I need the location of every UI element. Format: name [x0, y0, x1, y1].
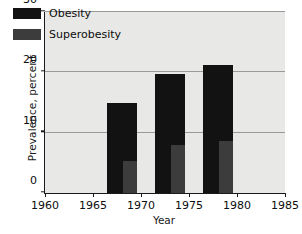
x-tick-label: 1965	[71, 199, 115, 212]
x-tick-mark	[189, 193, 190, 197]
x-tick-mark	[285, 193, 286, 197]
y-tick-label: 10	[0, 113, 37, 126]
bar-superobesity	[123, 161, 137, 193]
legend-item: Obesity	[13, 5, 121, 22]
legend-label: Superobesity	[49, 28, 121, 41]
chart-figure: Prevalence, percent Year 0102030 1960196…	[0, 0, 302, 234]
legend-label: Obesity	[49, 7, 91, 20]
bar-superobesity	[219, 141, 233, 193]
y-tick-mark	[41, 70, 45, 71]
x-tick-mark	[45, 193, 46, 197]
x-tick-mark	[237, 193, 238, 197]
legend-swatch	[13, 29, 41, 40]
bar-superobesity	[171, 145, 185, 193]
x-tick-label: 1970	[119, 199, 163, 212]
x-tick-mark	[141, 193, 142, 197]
y-tick-label: 0	[0, 174, 37, 187]
y-tick-mark	[41, 131, 45, 132]
legend-item: Superobesity	[13, 26, 121, 43]
y-tick-label: 20	[0, 53, 37, 66]
x-tick-label: 1975	[167, 199, 211, 212]
x-tick-label: 1960	[23, 199, 67, 212]
x-tick-label: 1985	[263, 199, 302, 212]
chart-legend: ObesitySuperobesity	[13, 5, 121, 47]
x-axis-title: Year	[44, 214, 284, 226]
gridline	[45, 71, 285, 72]
x-tick-label: 1980	[215, 199, 259, 212]
x-tick-mark	[93, 193, 94, 197]
legend-swatch	[13, 8, 41, 19]
